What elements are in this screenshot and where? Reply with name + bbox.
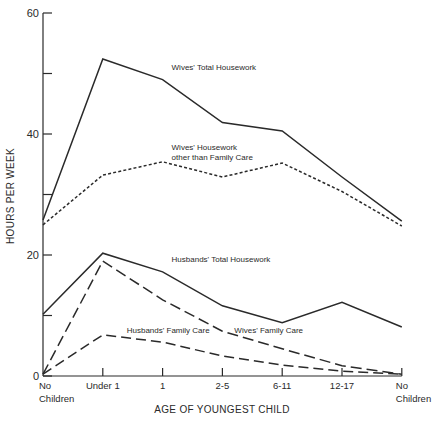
x-tick-label: 6-11 <box>273 380 291 391</box>
line-chart: 0204060NoChildrenUnder 112-56-1112-17NoC… <box>0 0 432 422</box>
y-tick-label: 20 <box>27 249 39 261</box>
y-tick-label: 60 <box>27 7 39 19</box>
x-tick-label: 12-17 <box>330 380 354 391</box>
series-line-husbands-total-housework <box>43 253 402 327</box>
x-tick-label: 1 <box>160 380 165 391</box>
series-line-wives-housework-other-than-family-care <box>43 162 402 226</box>
x-tick-label: 2-5 <box>216 380 230 391</box>
series-line-wives-family-care <box>43 261 402 374</box>
series-label: Wives' Family Care <box>234 326 303 335</box>
x-tick-label: NoChildren <box>39 380 74 404</box>
x-axis-label: AGE OF YOUNGEST CHILD <box>154 404 289 415</box>
series-label: Husbands' Family Care <box>127 326 210 335</box>
y-tick-label: 40 <box>27 128 39 140</box>
series-label: Wives' Houseworkother than Family Care <box>172 143 254 162</box>
series-labels: Wives' Total HouseworkWives' Houseworkot… <box>127 63 304 335</box>
x-tick-label: NoChildren <box>396 380 431 404</box>
series-line-wives-total-housework <box>43 59 402 221</box>
series-lines <box>43 59 402 374</box>
series-label: Wives' Total Housework <box>172 63 258 72</box>
y-axis-label: HOURS PER WEEK <box>5 148 16 244</box>
series-label: Husbands' Total Housework <box>172 255 272 264</box>
x-tick-label: Under 1 <box>86 380 120 391</box>
